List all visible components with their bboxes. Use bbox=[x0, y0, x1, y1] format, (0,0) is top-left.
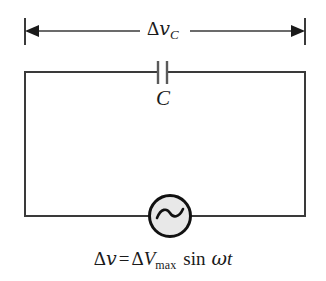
dimension-right-arrowhead bbox=[291, 25, 305, 37]
capacitor-ac-circuit-figure: ΔvC C Δv=ΔVmaxsinωt bbox=[0, 0, 326, 281]
circuit-drawing bbox=[0, 0, 326, 281]
ac-source-circle bbox=[150, 196, 191, 237]
dimension-left-arrowhead bbox=[25, 25, 39, 37]
capacitor-symbol bbox=[158, 61, 167, 84]
dimension-arrow-group bbox=[25, 18, 305, 45]
ac-source-symbol bbox=[150, 196, 191, 237]
